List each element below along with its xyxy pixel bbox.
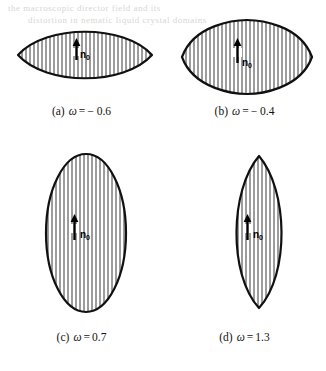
panel-c-omega-value: 0.7 [90,331,106,343]
panel-a-caption-index: (a) [52,105,65,117]
panel-a-director-label: n0 [80,50,90,61]
panel-b-caption: (b)ω=− 0.4 [163,104,326,118]
panel-b-omega-value: − 0.4 [249,105,275,117]
panel-b-director-label: n0 [242,58,252,69]
panel-b-omega-symbol: ω [228,105,240,117]
panel-c-equals: = [82,331,91,343]
panel-a-omega-value: − 0.6 [85,105,111,117]
director-subscript: 0 [86,234,90,241]
director-subscript: 0 [86,54,90,61]
panel-d-omega-value: 1.3 [253,331,269,343]
panel-a-omega-symbol: ω [65,105,77,117]
director-subscript: 0 [248,62,252,69]
panel-c-omega-symbol: ω [69,331,81,343]
director-subscript: 0 [259,234,263,241]
panel-b-equals: = [240,105,249,117]
panel-d-caption-index: (d) [219,331,232,343]
panel-c-director-label: n0 [80,230,90,241]
figure-root: the macroscopic director field and its d… [0,0,326,371]
panel-d-omega-symbol: ω [233,331,245,343]
panel-c-caption: (c)ω=0.7 [0,330,163,344]
panel-b-caption-index: (b) [215,105,228,117]
bleed-line-1: the macroscopic director field and its [8,3,161,13]
panel-c-caption-index: (c) [57,331,70,343]
panel-a-caption: (a)ω=− 0.6 [0,104,163,118]
panel-d-director-label: n0 [253,230,263,241]
panel-d-caption: (d)ω=1.3 [163,330,326,344]
